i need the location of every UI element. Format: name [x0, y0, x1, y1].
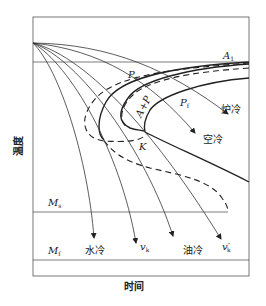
x-axis-label: 时间 [124, 280, 144, 292]
vk-prime-label: v′k [222, 241, 231, 253]
water-cooling-label: 水冷 [85, 244, 105, 256]
cooling-curve-vk [33, 43, 136, 243]
cooling-curve-vk-prime [33, 43, 221, 239]
oil-cooling-label: 油冷 [183, 244, 203, 256]
k-label: K [138, 141, 147, 152]
mf-label: Mf [47, 245, 61, 257]
a1-label: A1 [222, 50, 234, 62]
start-curve [99, 62, 249, 140]
vk-label: vk [140, 241, 150, 253]
cct-lower-dashed-curve [104, 141, 228, 212]
pf-label: Pf [179, 97, 190, 109]
y-axis-label: 温度 [12, 135, 24, 156]
cct-diagram: A1 Ms Mf Ps Pf A+P K 炉冷 空冷 v′k 油冷 vk 水冷 … [0, 0, 266, 306]
furnace-cooling-label: 炉冷 [221, 103, 241, 115]
air-cooling-label: 空冷 [203, 133, 223, 145]
ms-label: Ms [47, 197, 61, 209]
a-plus-p-label: A+P [133, 94, 154, 120]
pf-finish-curve [145, 78, 249, 182]
ps-label: Ps [127, 69, 138, 81]
ps-start-dashed-curve [85, 63, 249, 141]
